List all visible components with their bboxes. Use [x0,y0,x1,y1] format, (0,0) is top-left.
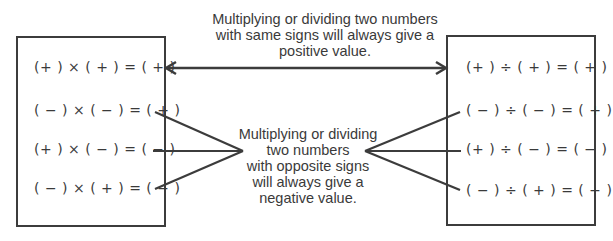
caption-line: negative value. [228,190,388,206]
caption-line: will always give a [228,174,388,190]
caption-line: with opposite signs [228,158,388,174]
mult-equation-pos-pos: (+ ) × ( + ) = ( + ) [34,59,175,75]
mult-equation-neg-pos: ( − ) × ( + ) = ( − ) [34,180,180,196]
same-signs-caption: Multiplying or dividing two numbers with… [200,11,450,59]
div-equation-pos-pos: (+ ) ÷ ( + ) = ( + ) [466,59,607,75]
caption-line: Multiplying or dividing [228,126,388,142]
opposite-signs-caption: Multiplying or dividing two numbers with… [228,126,388,206]
div-equation-neg-pos: ( − ) ÷ ( + ) = ( − ) [466,182,612,198]
mult-equation-pos-neg: (+ ) × ( − ) = ( − ) [34,141,175,157]
caption-line: positive value. [200,43,450,59]
div-equation-neg-neg: ( − ) ÷ ( − ) = ( + ) [466,102,612,118]
caption-line: with same signs will always give a [200,27,450,43]
mult-equation-neg-neg: ( − ) × ( − ) = ( + ) [34,102,180,118]
caption-line: two numbers [228,142,388,158]
div-equation-pos-neg: (+ ) ÷ ( − ) = ( − ) [466,141,607,157]
caption-line: Multiplying or dividing two numbers [200,11,450,27]
